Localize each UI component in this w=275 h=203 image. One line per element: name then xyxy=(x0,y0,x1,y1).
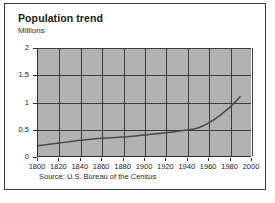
y-tick-label: 0 xyxy=(5,152,29,161)
x-tick-mark xyxy=(251,158,252,161)
x-tick-label: 2000 xyxy=(236,162,266,171)
source-note: Source: U.S. Bureau of the Census xyxy=(39,172,156,181)
x-tick-mark xyxy=(80,158,81,161)
y-tick-label: 1 xyxy=(5,98,29,107)
y-tick-label: 0.5 xyxy=(5,125,29,134)
x-tick-mark xyxy=(37,158,38,161)
series-line-chart xyxy=(38,48,251,156)
x-tick-mark xyxy=(101,158,102,161)
x-gridline xyxy=(252,48,253,156)
figure-card: Population trend Millions 00.511.52 1800… xyxy=(4,3,266,190)
population-trend-line xyxy=(38,97,240,146)
x-tick-mark xyxy=(208,158,209,161)
x-tick-mark xyxy=(144,158,145,161)
x-tick-mark xyxy=(58,158,59,161)
x-tick-mark xyxy=(123,158,124,161)
y-tick-label: 1.5 xyxy=(5,70,29,79)
x-tick-mark xyxy=(230,158,231,161)
y-tick-label: 2 xyxy=(5,43,29,52)
plot-area xyxy=(37,48,251,157)
x-tick-mark xyxy=(187,158,188,161)
y-axis-unit-label: Millions xyxy=(18,26,45,35)
page-title: Population trend xyxy=(18,12,103,24)
x-tick-mark xyxy=(165,158,166,161)
